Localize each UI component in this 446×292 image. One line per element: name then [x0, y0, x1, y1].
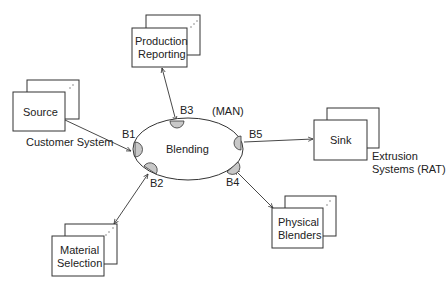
- port-label-b2: B2: [150, 177, 163, 189]
- connector-production-reporting-b3: [162, 68, 176, 121]
- fold-dot: [329, 200, 330, 201]
- connector-physical-blenders-b4: [235, 170, 273, 208]
- extrusion-caption-line1: Extrusion: [372, 150, 418, 162]
- blending-label: Blending: [166, 143, 209, 155]
- fold-dot: [108, 231, 109, 232]
- connector-material-selection-b2: [114, 174, 148, 224]
- man-annotation: (MAN): [212, 105, 244, 117]
- source-label: Source: [23, 106, 58, 118]
- physical-blenders-front-box: [272, 208, 323, 248]
- physical-blenders-line1: Physical: [278, 216, 319, 228]
- production-reporting-line1: Production: [135, 35, 188, 47]
- fold-dot: [193, 23, 194, 24]
- customer-system-caption: Customer System: [26, 136, 113, 148]
- physical-blenders-line2: Blenders: [278, 229, 322, 241]
- port-label-b5: B5: [249, 128, 262, 140]
- node-production-reporting[interactable]: Production Reporting: [132, 15, 200, 67]
- blending-process[interactable]: Blending: [133, 118, 243, 180]
- material-selection-front-box: [52, 236, 104, 276]
- material-selection-line2: Selection: [57, 257, 102, 269]
- sink-label: Sink: [330, 134, 352, 146]
- material-selection-line1: Material: [60, 244, 99, 256]
- fold-dot: [196, 20, 197, 21]
- blending-context-diagram: Blending (MAN) B3 B1 B2 B5 B4 Production…: [0, 0, 446, 292]
- node-source[interactable]: Source: [13, 80, 79, 131]
- fold-dot: [69, 87, 70, 88]
- fold-dot: [112, 227, 113, 228]
- fold-dot: [326, 204, 327, 205]
- production-reporting-line2: Reporting: [138, 48, 186, 60]
- extrusion-caption-line2: Systems (RAT): [372, 163, 446, 175]
- fold-dot: [190, 26, 191, 27]
- node-sink[interactable]: Sink: [314, 108, 379, 160]
- port-label-b4: B4: [226, 176, 239, 188]
- node-physical-blenders[interactable]: Physical Blenders: [272, 196, 336, 248]
- fold-dot: [72, 84, 73, 85]
- fold-dot: [105, 234, 106, 235]
- port-label-b3: B3: [180, 104, 193, 116]
- node-material-selection[interactable]: Material Selection: [52, 224, 117, 276]
- port-label-b1: B1: [122, 128, 135, 140]
